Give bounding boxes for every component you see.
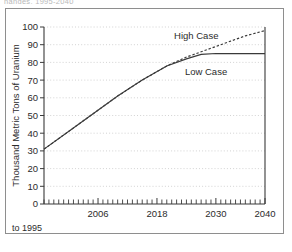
x-tick-label: 2006: [87, 208, 108, 219]
x-axis-tick-label-group: 2006201820302040: [87, 208, 275, 219]
line-chart: 0102030405060708090100 2006201820302040 …: [6, 9, 283, 233]
y-tick-label: 20: [27, 163, 38, 174]
y-tick-label: 60: [27, 92, 38, 103]
series-label-low-case: Low Case: [185, 66, 227, 77]
x-tick-label: 2018: [146, 208, 167, 219]
chart-plot-area: 0102030405060708090100 2006201820302040 …: [6, 9, 283, 233]
y-tick-label: 90: [27, 39, 38, 50]
series-label-high-case: High Case: [174, 30, 218, 41]
x-tick-label: 2040: [254, 208, 275, 219]
clipped-top-caption: hanges, 1995-2040: [4, 0, 74, 4]
y-tick-label: 40: [27, 128, 38, 139]
series-line-high-case: [44, 31, 265, 150]
y-tick-label: 50: [27, 110, 38, 121]
y-axis-title: Thousand Metric Tons of Uranium: [10, 44, 21, 186]
y-tick-label: 0: [33, 198, 38, 209]
x-tick-label: 2030: [205, 208, 226, 219]
series-line-low-case: [44, 54, 265, 150]
y-tick-label: 80: [27, 57, 38, 68]
footnote-to-1995: to 1995: [12, 223, 42, 233]
y-tick-label: 10: [27, 181, 38, 192]
x-axis-tick-group: [44, 198, 265, 204]
y-axis-tick-group: [40, 27, 44, 204]
gridline-group: [44, 27, 265, 186]
y-axis-tick-label-group: 0102030405060708090100: [22, 21, 38, 209]
y-tick-label: 70: [27, 75, 38, 86]
y-tick-label: 30: [27, 145, 38, 156]
y-tick-label: 100: [22, 21, 38, 32]
figure-frame: 0102030405060708090100 2006201820302040 …: [5, 8, 284, 234]
